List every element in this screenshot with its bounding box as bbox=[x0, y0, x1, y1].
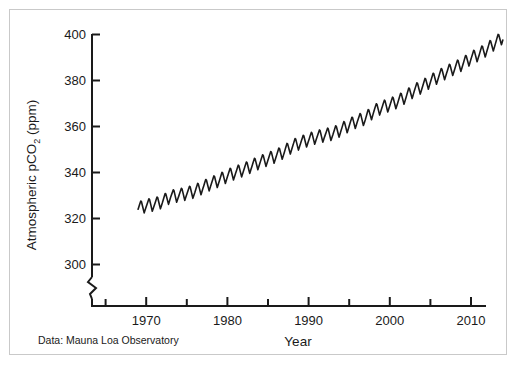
figure-frame: 400 380 360 340 320 300 bbox=[9, 9, 507, 355]
y-tick-label-360: 360 bbox=[64, 119, 86, 134]
x-tick-label-1980: 1980 bbox=[213, 313, 242, 328]
source-note: Data: Mauna Loa Observatory bbox=[38, 334, 179, 346]
y-axis-ticks bbox=[92, 35, 100, 265]
y-tick-label-340: 340 bbox=[64, 165, 86, 180]
x-tick-label-1970: 1970 bbox=[132, 313, 161, 328]
x-tick-label-2000: 2000 bbox=[375, 313, 404, 328]
y-tick-label-320: 320 bbox=[64, 211, 86, 226]
y-axis-title: Atmospheric pCO2 (ppm) bbox=[24, 100, 42, 251]
y-tick-label-300: 300 bbox=[64, 257, 86, 272]
y-tick-label-400: 400 bbox=[64, 27, 86, 42]
y-axis-break-icon bbox=[88, 277, 96, 299]
x-axis-title: Year bbox=[284, 334, 312, 349]
co2-data-line bbox=[138, 34, 503, 213]
y-axis-tick-labels: 400 380 360 340 320 300 bbox=[64, 27, 86, 272]
figure-page: 400 380 360 340 320 300 bbox=[0, 0, 518, 366]
x-axis-tick-labels: 1970 1980 1990 2000 2010 bbox=[132, 313, 486, 328]
x-axis-ticks bbox=[106, 297, 471, 306]
keeling-curve-chart: 400 380 360 340 320 300 bbox=[10, 10, 506, 354]
y-axis-title-main: Atmospheric pCO bbox=[24, 144, 39, 251]
x-tick-label-1990: 1990 bbox=[294, 313, 323, 328]
y-axis-title-unit: (ppm) bbox=[24, 100, 39, 139]
y-tick-label-380: 380 bbox=[64, 73, 86, 88]
x-tick-label-2010: 2010 bbox=[457, 313, 486, 328]
